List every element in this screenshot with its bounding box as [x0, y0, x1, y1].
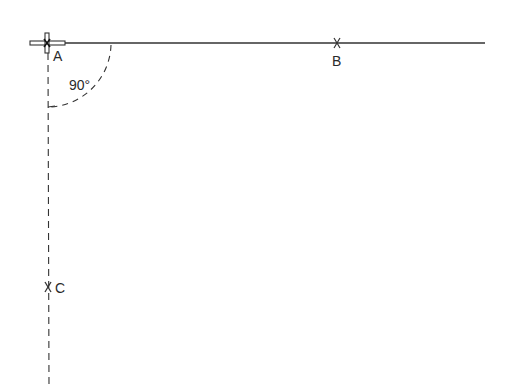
- point-c-marker: [45, 282, 51, 292]
- angle-label: 90°: [69, 77, 90, 93]
- perpendicular-line-ac: [48, 53, 49, 388]
- point-a-label: A: [53, 48, 63, 64]
- point-b-label: B: [332, 53, 341, 69]
- right-angle-construction-diagram: A B C 90°: [0, 0, 522, 391]
- point-c-label: C: [55, 280, 65, 296]
